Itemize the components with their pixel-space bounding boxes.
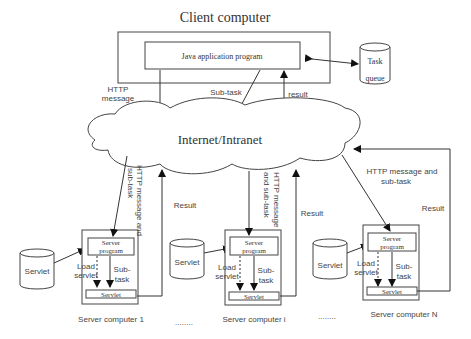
java-app-label: Java application program: [182, 52, 264, 61]
server-computer-1: Servlet Server program Load servlet Sub-…: [20, 156, 197, 324]
server-name: Server computer 1: [78, 315, 144, 324]
servlet-box-label: Servlet: [101, 291, 121, 299]
load-arrow: [54, 249, 85, 263]
sub-label-2: task: [115, 275, 131, 284]
incoming-label-1: HTTP message: [272, 172, 281, 228]
servlet-store-label: Servlet: [318, 261, 344, 270]
server-program-label-1: Server: [102, 239, 121, 247]
subtask-label: Sub-task: [210, 88, 243, 97]
server-program-label-2: program: [380, 243, 404, 251]
sub-label-1: Sub-: [114, 265, 131, 274]
ellipsis-2: ........: [318, 312, 336, 321]
internet-label: Internet/Intranet: [178, 132, 263, 147]
load-label-2: servlet: [215, 272, 239, 281]
load-label-1: Load: [218, 263, 236, 272]
incoming-label-2: and sub-task: [262, 172, 271, 219]
servlet-box-label: Servlet: [244, 293, 264, 301]
sub-label-2: task: [259, 276, 275, 285]
server-program-label-2: program: [99, 247, 123, 255]
distributed-servlet-diagram: Client computer Java application program…: [0, 0, 471, 339]
servlet-store-label: Servlet: [175, 258, 201, 267]
result-label: Result: [422, 204, 445, 213]
server-name: Server computer N: [370, 310, 437, 319]
incoming-label-1: HTTP message and: [367, 167, 438, 176]
load-label-2: servlet: [74, 271, 98, 280]
incoming-label-1: HTTP message and: [135, 165, 144, 236]
load-label-1: Load: [77, 262, 95, 271]
sub-label-2: task: [397, 272, 413, 281]
sub-label-1: Sub-: [396, 262, 413, 271]
result-return-arrow: [280, 170, 296, 296]
incoming-label-2: sub-task: [381, 177, 412, 186]
result-label: Result: [301, 209, 324, 218]
result-label: Result: [174, 201, 197, 210]
server-name: Server computer i: [222, 315, 285, 324]
incoming-arrow: [113, 156, 127, 236]
incoming-label-2: sub-task: [126, 168, 135, 199]
servlet-store-label: Servlet: [25, 267, 51, 276]
task-queue-label-2: queue: [365, 74, 385, 83]
server-program-label-1: Server: [245, 239, 264, 247]
server-program-label-2: program: [242, 247, 266, 255]
server-computer-N: Servlet Server program Load servlet Sub-…: [313, 149, 450, 319]
load-label-1: Load: [357, 259, 375, 268]
servlet-store-icon: [313, 239, 347, 279]
server-program-label-1: Server: [383, 235, 402, 243]
load-label-2: servlet: [354, 268, 378, 277]
server-computer-i: Servlet Server program Load servlet Sub-…: [170, 170, 324, 324]
http-message-label-1: HTTP: [108, 85, 129, 94]
client-computer-title: Client computer: [180, 10, 271, 25]
http-message-label-2: message: [102, 94, 135, 103]
sub-label-1: Sub-: [258, 266, 275, 275]
servlet-box-label: Servlet: [382, 288, 402, 296]
ellipsis-1: ........: [175, 318, 193, 327]
task-queue-label-1: Task: [368, 57, 383, 66]
